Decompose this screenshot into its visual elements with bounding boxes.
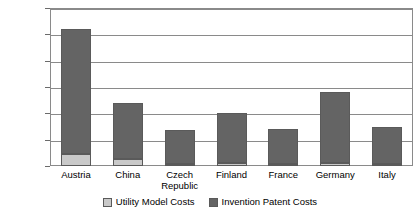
legend-item-label: Invention Patent Costs [222, 197, 318, 207]
legend-item[interactable]: Invention Patent Costs [209, 197, 318, 207]
x-axis-tick-label: China [102, 169, 154, 180]
bar-segment[interactable] [320, 92, 350, 163]
x-axis-tick-label: Italy [361, 169, 413, 180]
x-axis-tick-label: Germany [309, 169, 361, 180]
bar-segment[interactable] [217, 113, 247, 163]
bar-segment[interactable] [61, 154, 91, 166]
bar-group[interactable] [165, 8, 195, 166]
bars-layer [50, 8, 413, 166]
bar-segment[interactable] [320, 163, 350, 166]
legend-item-label: Utility Model Costs [116, 197, 195, 207]
bar-group[interactable] [61, 8, 91, 166]
bar-chart: 05,00010,00015,00020,00025,00030,000 Aus… [0, 0, 420, 221]
bar-segment[interactable] [165, 164, 195, 166]
bar-group[interactable] [113, 8, 143, 166]
bar-segment[interactable] [372, 127, 402, 165]
bar-segment[interactable] [61, 29, 91, 154]
bar-group[interactable] [217, 8, 247, 166]
chart-legend: Utility Model CostsInvention Patent Cost… [0, 197, 420, 207]
bar-segment[interactable] [113, 159, 143, 166]
x-axis-tick-label: Czech Republic [154, 169, 206, 191]
bar-segment[interactable] [165, 130, 195, 164]
bar-segment[interactable] [268, 129, 298, 164]
x-axis-tick-label: Austria [50, 169, 102, 180]
bar-group[interactable] [268, 8, 298, 166]
bar-segment[interactable] [268, 164, 298, 166]
bar-segment[interactable] [217, 163, 247, 166]
legend-item[interactable]: Utility Model Costs [103, 197, 195, 207]
bar-segment[interactable] [113, 103, 143, 159]
x-axis-tick-label: France [257, 169, 309, 180]
x-axis-tick-label: Finland [206, 169, 258, 180]
invention-patent-costs-swatch [209, 198, 218, 207]
y-axis-tick-mark [45, 166, 50, 167]
utility-model-costs-swatch [103, 198, 112, 207]
bar-group[interactable] [372, 8, 402, 166]
bar-group[interactable] [320, 8, 350, 166]
